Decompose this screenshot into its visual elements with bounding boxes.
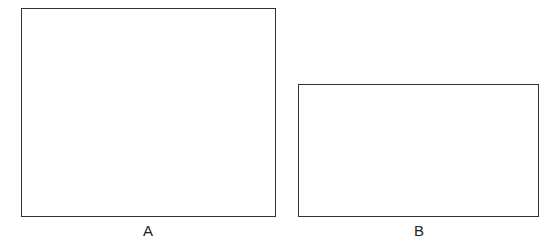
rectangle-a	[21, 8, 276, 217]
rectangle-b	[298, 84, 539, 217]
rectangle-a-label: A	[128, 222, 168, 239]
rectangle-b-label: B	[399, 222, 439, 239]
